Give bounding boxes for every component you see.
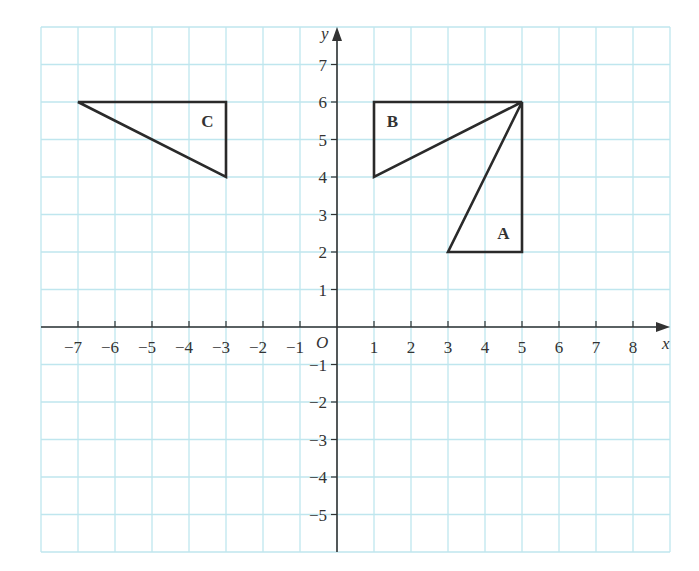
y-tick-label: −3 <box>309 431 327 450</box>
x-tick-label: −1 <box>286 338 304 357</box>
triangle-label-a: A <box>497 224 510 243</box>
x-tick-label: −2 <box>249 338 267 357</box>
y-tick-label: 3 <box>319 206 328 225</box>
x-tick-label: 6 <box>555 338 564 357</box>
y-tick-label: −1 <box>309 356 327 375</box>
x-tick-label: 7 <box>592 338 601 357</box>
origin-label: O <box>316 333 328 352</box>
x-tick-label: 4 <box>481 338 490 357</box>
x-axis-arrow-icon <box>656 322 670 332</box>
x-axis-label: x <box>661 334 670 353</box>
coordinate-grid-diagram: −7−6−5−4−3−2−112345678−5−4−3−2−11234567x… <box>0 0 699 571</box>
x-tick-label: −4 <box>175 338 194 357</box>
y-tick-label: 4 <box>319 168 328 187</box>
x-tick-label: −5 <box>138 338 156 357</box>
x-tick-label: −6 <box>101 338 119 357</box>
y-tick-label: 7 <box>319 56 328 75</box>
triangle-label-b: B <box>387 112 398 131</box>
x-tick-label: 1 <box>370 338 379 357</box>
y-axis-arrow-icon <box>332 27 342 41</box>
labels: −7−6−5−4−3−2−112345678−5−4−3−2−11234567x… <box>64 24 670 525</box>
x-tick-label: 2 <box>407 338 416 357</box>
y-tick-label: 5 <box>319 131 328 150</box>
x-tick-label: −7 <box>64 338 83 357</box>
grid-lines <box>41 27 670 552</box>
x-tick-label: 8 <box>629 338 638 357</box>
y-tick-label: −2 <box>309 393 327 412</box>
triangle-label-c: C <box>201 112 213 131</box>
y-tick-label: 1 <box>319 281 328 300</box>
y-tick-label: −5 <box>309 506 327 525</box>
y-axis-label: y <box>319 24 329 43</box>
x-tick-label: 3 <box>444 338 453 357</box>
x-tick-label: −3 <box>212 338 230 357</box>
y-tick-label: 6 <box>319 93 328 112</box>
x-tick-label: 5 <box>518 338 527 357</box>
y-tick-label: 2 <box>319 243 328 262</box>
y-tick-label: −4 <box>309 468 328 487</box>
